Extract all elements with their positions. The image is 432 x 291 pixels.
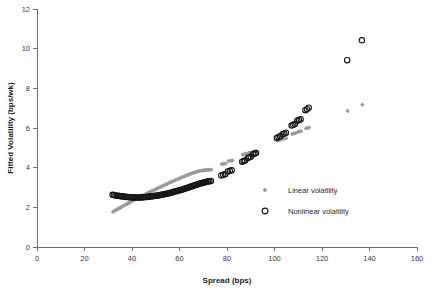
x-tick-label: 60 (175, 254, 183, 263)
x-tick-label: 140 (363, 254, 376, 263)
axes-layer (37, 9, 417, 247)
x-tick-label: 120 (316, 254, 329, 263)
x-tick-label: 80 (223, 254, 231, 263)
data-point-linear (360, 103, 364, 107)
y-tick-label: 2 (26, 203, 30, 212)
x-tick-label: 20 (80, 254, 88, 263)
x-tick-label: 160 (411, 254, 424, 263)
y-tick-label: 8 (26, 84, 30, 93)
y-tick-label: 12 (22, 5, 30, 14)
y-tick-label: 0 (26, 243, 30, 252)
x-tick-label: 100 (268, 254, 281, 263)
chart-container: 020406080100120140160024681012 Spread (b… (0, 0, 432, 291)
tick-labels-layer: 020406080100120140160024681012 (22, 5, 424, 263)
scatter-plot: 020406080100120140160024681012 Spread (b… (0, 0, 432, 291)
series-nonlinear-volatility (110, 38, 365, 200)
x-axis-title: Spread (bps) (203, 276, 252, 285)
legend-marker-linear-volatility (263, 188, 268, 193)
y-axis-title: Fitted Volatility (bps/wk) (6, 82, 15, 174)
y-tick-label: 4 (26, 163, 30, 172)
tick-marks-layer (33, 9, 417, 251)
y-tick-label: 6 (26, 124, 30, 133)
x-tick-label: 40 (128, 254, 136, 263)
legend: Linear volatility Nonlinear volatility (262, 186, 349, 216)
data-point-nonlinear (344, 57, 349, 62)
data-point-linear (345, 109, 349, 113)
x-tick-label: 0 (35, 254, 39, 263)
legend-label-nonlinear-volatility: Nonlinear volatility (288, 207, 349, 216)
legend-marker-nonlinear-volatility (262, 208, 268, 214)
legend-label-linear-volatility: Linear volatility (288, 186, 338, 195)
y-tick-label: 10 (22, 44, 30, 53)
data-point-nonlinear (359, 38, 364, 43)
